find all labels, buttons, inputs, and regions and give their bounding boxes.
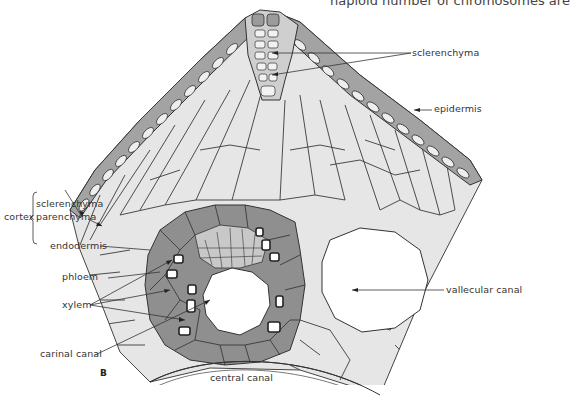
label-central-canal: central canal	[210, 372, 273, 383]
label-sclerenchyma-top: sclerenchyma	[412, 47, 479, 58]
label-endodermis: endodermis	[50, 240, 107, 251]
label-vallecular-canal: vallecular canal	[446, 284, 522, 295]
vascular-bundle	[145, 205, 305, 365]
label-cortex-sclerenchyma: sclerenchyma	[36, 198, 103, 209]
label-carinal-canal: carinal canal	[40, 348, 102, 359]
label-xylem: xylem	[62, 299, 91, 310]
label-epidermis: epidermis	[434, 103, 482, 114]
label-cortex-parenchyma: parenchyma	[36, 211, 96, 222]
label-cortex: cortex	[4, 211, 35, 222]
label-phloem: phloem	[62, 271, 98, 282]
figure-letter: B	[100, 368, 107, 378]
